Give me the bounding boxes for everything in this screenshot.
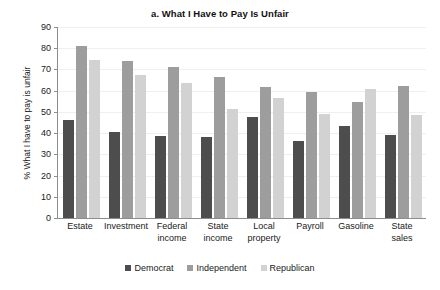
bar (385, 135, 396, 218)
y-axis-tick (54, 133, 58, 134)
legend-swatch-icon (187, 265, 193, 271)
bar (319, 114, 330, 218)
y-axis-tick-label: 10 (11, 192, 51, 202)
bar-group (334, 27, 380, 218)
y-axis-tick-label: 80 (11, 43, 51, 53)
y-axis-tick (54, 27, 58, 28)
bar (201, 137, 212, 218)
y-axis-tick (54, 112, 58, 113)
bar-group (196, 27, 242, 218)
bar (181, 83, 192, 218)
bar (352, 102, 363, 218)
bar (260, 87, 271, 218)
bar-chart: a. What I Have to Pay Is Unfair % What I… (0, 0, 440, 290)
x-axis-category-label: Stateincome (195, 221, 241, 244)
y-axis-tick-label: 70 (11, 64, 51, 74)
legend-label: Republican (270, 263, 315, 273)
y-axis-tick-label: 0 (11, 213, 51, 223)
x-axis-category-label: Estate (57, 221, 103, 244)
x-axis-category-labels: EstateInvestmentFederalincomeStateincome… (57, 221, 425, 244)
x-axis-category-label: Statesales (379, 221, 425, 244)
bar (168, 67, 179, 218)
bar (273, 98, 284, 218)
bar (135, 75, 146, 218)
bar (227, 109, 238, 218)
bar (293, 141, 304, 218)
legend-label: Independent (196, 263, 246, 273)
x-axis-category-label: Payroll (287, 221, 333, 244)
y-axis-tick (54, 91, 58, 92)
bar-group (104, 27, 150, 218)
bar (398, 86, 409, 218)
bar (89, 60, 100, 218)
y-axis-tick (54, 197, 58, 198)
chart-legend: DemocratIndependentRepublican (0, 263, 440, 273)
legend-item: Republican (261, 263, 315, 273)
x-axis-line (58, 218, 426, 219)
x-axis-category-label: Federalincome (149, 221, 195, 244)
bar (155, 136, 166, 218)
y-axis-tick-label: 60 (11, 86, 51, 96)
y-axis-tick (54, 48, 58, 49)
x-axis-category-label: Localproperty (241, 221, 287, 244)
bar (411, 115, 422, 218)
y-axis-tick-label: 40 (11, 128, 51, 138)
bar-group (288, 27, 334, 218)
y-axis-tick (54, 69, 58, 70)
bar (339, 126, 350, 218)
y-axis-tick-label: 20 (11, 171, 51, 181)
legend-label: Democrat (134, 263, 173, 273)
bar-group (150, 27, 196, 218)
y-axis-tick (54, 154, 58, 155)
bar (365, 89, 376, 218)
bar-group (242, 27, 288, 218)
bar-groups (58, 27, 426, 218)
y-axis-tick-labels: 0102030405060708090 (9, 27, 51, 218)
bar-group (58, 27, 104, 218)
bar (214, 77, 225, 218)
x-axis-category-label: Investment (103, 221, 149, 244)
legend-item: Democrat (125, 263, 173, 273)
bar-group (380, 27, 426, 218)
y-axis-tick-label: 50 (11, 107, 51, 117)
bar (306, 92, 317, 218)
plot-area (57, 27, 426, 218)
x-axis-category-label: Gasoline (333, 221, 379, 244)
bar (63, 120, 74, 218)
bar (109, 132, 120, 218)
y-axis-tick (54, 176, 58, 177)
legend-swatch-icon (125, 265, 131, 271)
bar (122, 61, 133, 218)
y-axis-tick (54, 218, 58, 219)
bar (247, 117, 258, 218)
legend-swatch-icon (261, 265, 267, 271)
bar (76, 46, 87, 218)
y-axis-tick-label: 30 (11, 149, 51, 159)
y-axis-tick-label: 90 (11, 22, 51, 32)
legend-item: Independent (187, 263, 246, 273)
chart-title: a. What I Have to Pay Is Unfair (0, 8, 440, 19)
